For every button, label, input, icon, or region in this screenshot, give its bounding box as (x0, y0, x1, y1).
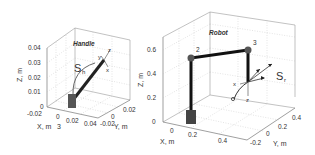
handle-extra-label: 3 (57, 123, 61, 130)
z-tick: 0 (152, 118, 156, 125)
x-tick: 0 (56, 113, 60, 120)
robot-ylabel: Y, m (273, 140, 287, 147)
x-tick: 0.4 (218, 137, 227, 144)
y-tick: -0.02 (100, 120, 115, 127)
y-tick: 0.02 (123, 106, 136, 113)
y-tick: 0 (266, 130, 270, 137)
robot-xlabel: X, m (160, 138, 175, 145)
robot-axis-z-label: z (246, 97, 249, 103)
handle-ylabel: Y, m (114, 123, 128, 130)
z-tick: 0.4 (147, 70, 156, 77)
joint-label-2: 2 (196, 46, 200, 53)
z-tick: 0.2 (147, 94, 156, 101)
handle-axis-x-label: x (106, 67, 109, 73)
z-tick: 0.6 (147, 46, 156, 53)
z-tick: 0.01 (28, 88, 41, 95)
x-tick: 0.2 (188, 131, 197, 138)
handle-plot: z y x Handle S h 0.04 0.03 0.02 0.01 0 Z… (16, 28, 136, 130)
joint-label-3: 3 (253, 39, 257, 46)
handle-title: Handle (73, 40, 95, 47)
y-tick: 0.2 (278, 123, 287, 130)
y-tick: -0.2 (250, 139, 262, 146)
robot-axis-x-label: x (233, 81, 236, 87)
z-tick: 0 (40, 103, 44, 110)
handle-zlabel: Z, m (16, 68, 23, 82)
x-tick: 0.04 (84, 120, 97, 127)
figure: z y x Handle S h 0.04 0.03 0.02 0.01 0 Z… (0, 0, 315, 155)
robot-title: Robot (209, 29, 229, 36)
z-tick: 0.04 (28, 44, 41, 51)
handle-xlabel: X, m (37, 123, 52, 130)
handle-frame-sub: h (82, 69, 85, 75)
robot-plot: 2 3 x z S r Robot 0 0.2 0.4 0.6 Z, m 0 0… (137, 12, 301, 147)
x-tick: 0 (170, 127, 174, 134)
handle-frame-label: S (74, 62, 81, 74)
x-tick: 0.02 (66, 117, 79, 124)
x-tick: -0.02 (27, 110, 42, 117)
robot-frame-sub: r (284, 77, 286, 83)
y-tick: 0.4 (292, 114, 301, 121)
robot-zlabel: Z, m (137, 73, 144, 87)
z-tick: 0.02 (28, 74, 41, 81)
handle-axis-z-label: z (108, 47, 111, 53)
robot-frame-label: S (276, 70, 283, 82)
handle-axis-y-label: y (98, 54, 101, 60)
y-tick: 0 (111, 113, 115, 120)
z-tick: 0.03 (28, 59, 41, 66)
